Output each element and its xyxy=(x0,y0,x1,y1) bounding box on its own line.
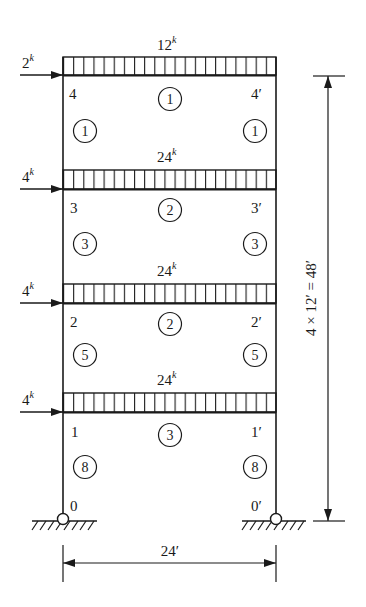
joint-label-left: 1 xyxy=(71,424,79,440)
joint-label-right: 4′ xyxy=(251,86,262,102)
joint-label-left: 2 xyxy=(70,314,78,330)
column-member-tag-left: 3 xyxy=(74,233,97,256)
joint-label-right-base: 0′ xyxy=(251,498,262,514)
svg-text:2: 2 xyxy=(167,203,174,218)
support-left: 0 xyxy=(32,498,97,530)
joint-label-right: 1′ xyxy=(251,424,262,440)
support-right: 0′ xyxy=(242,498,306,530)
joint-label-left: 4 xyxy=(69,86,77,102)
beam-member-tag: 2 xyxy=(159,199,182,222)
svg-text:3: 3 xyxy=(252,237,259,252)
lateral-load-label: 2k xyxy=(22,52,35,71)
joint-label-right: 2′ xyxy=(251,314,262,330)
distributed-load-label: 24k xyxy=(157,369,177,388)
height-label: 4 × 12′ = 48′ xyxy=(303,260,319,336)
distributed-load-bar xyxy=(63,170,276,189)
lateral-load-label: 4k xyxy=(22,280,35,299)
column-member-tag-right: 3 xyxy=(244,233,267,256)
beam-member-tag: 2 xyxy=(159,313,182,336)
svg-text:5: 5 xyxy=(82,348,89,363)
floor-4: 12k 2k 4 4′ 1 1 1 xyxy=(20,34,276,143)
joint-label-left-base: 0 xyxy=(70,498,78,514)
frame-diagram: 12k 2k 4 4′ 1 1 1 24k 4k 3 3′ 2 xyxy=(0,0,366,607)
lateral-load-label: 4k xyxy=(22,389,35,408)
distributed-load-label: 12k xyxy=(157,34,177,53)
column-member-tag-right: 1 xyxy=(244,120,267,143)
distributed-load-bar xyxy=(63,57,276,75)
floor-3: 24k 4k 3 3′ 2 3 3 xyxy=(20,146,276,256)
floor-2: 24k 4k 2 2′ 2 5 5 xyxy=(20,260,276,367)
svg-text:3: 3 xyxy=(82,237,89,252)
distributed-load-bar xyxy=(63,393,276,412)
pin-icon xyxy=(58,514,69,525)
joint-label-left: 3 xyxy=(70,200,78,216)
lateral-load-label: 4k xyxy=(22,166,35,185)
column-member-tag-right: 5 xyxy=(244,344,267,367)
svg-text:1: 1 xyxy=(82,124,89,139)
distributed-load-label: 24k xyxy=(157,146,177,165)
joint-label-right: 3′ xyxy=(251,200,262,216)
pin-icon xyxy=(271,514,282,525)
column-member-tag-right: 8 xyxy=(244,456,267,479)
svg-text:8: 8 xyxy=(252,460,259,475)
width-dimension: 24′ xyxy=(63,543,276,582)
column-member-tag-left: 8 xyxy=(74,456,97,479)
beam-member-tag: 1 xyxy=(159,88,182,111)
column-member-tag-left: 1 xyxy=(74,120,97,143)
distributed-load-label: 24k xyxy=(157,260,177,279)
beam-member-tag: 3 xyxy=(159,424,182,447)
height-dimension: 4 × 12′ = 48′ xyxy=(303,76,345,521)
svg-text:1: 1 xyxy=(252,124,259,139)
width-label: 24′ xyxy=(161,543,179,559)
column-member-tag-left: 5 xyxy=(74,344,97,367)
svg-text:5: 5 xyxy=(252,348,259,363)
floor-1: 24k 4k 1 1′ 3 8 8 xyxy=(20,369,276,479)
svg-text:8: 8 xyxy=(82,460,89,475)
svg-text:3: 3 xyxy=(167,428,174,443)
svg-text:1: 1 xyxy=(167,92,174,107)
svg-text:2: 2 xyxy=(167,317,174,332)
distributed-load-bar xyxy=(63,284,276,303)
